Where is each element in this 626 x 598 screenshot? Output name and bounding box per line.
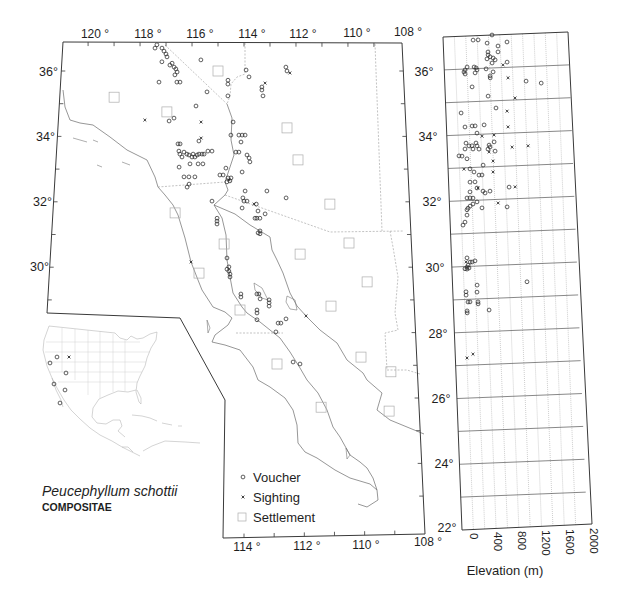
- settlement-marker: [325, 199, 335, 209]
- voucher-marker: [284, 317, 288, 321]
- elevation-voucher-marker: [481, 163, 485, 167]
- inset-voucher-marker: [64, 371, 68, 375]
- voucher-marker: [240, 170, 244, 174]
- lat-label: 30°: [426, 261, 445, 275]
- latitude-gridline: [451, 229, 576, 234]
- inset-north-america-map: [43, 326, 200, 456]
- voucher-marker: [205, 90, 209, 94]
- elevation-voucher-marker: [505, 40, 509, 44]
- elevation-voucher-marker: [486, 94, 490, 98]
- voucher-marker: [173, 73, 177, 77]
- voucher-marker: [182, 175, 186, 179]
- distribution-figure: 120 ° 118 ° 116 ° 114 ° 112 ° 110 ° 108 …: [0, 0, 626, 598]
- us-mexico-border-ca: [158, 182, 225, 187]
- inset-sighting-marker: [68, 356, 71, 359]
- elev-tick-label: 1200: [540, 530, 552, 556]
- voucher-marker: [196, 162, 200, 166]
- top-axis-labels: 120 ° 118 ° 116 ° 114 ° 112 ° 110 ° 108 …: [81, 25, 422, 41]
- elevation-gridline: [511, 34, 530, 527]
- lat-label: 36°: [39, 65, 58, 79]
- pacific-coastline: [63, 90, 378, 507]
- settlement-marker: [362, 277, 372, 287]
- voucher-marker: [160, 60, 164, 64]
- coastlines: [63, 90, 424, 507]
- voucher-marker: [284, 196, 288, 200]
- settlement-marker: [344, 238, 354, 248]
- legend-settlement-label: Settlement: [253, 510, 316, 525]
- sonora-chihuahua-border: [385, 231, 420, 374]
- lon-label: 112 °: [293, 539, 320, 553]
- elevation-gridline: [477, 36, 496, 529]
- voucher-marker: [187, 182, 191, 186]
- family-name: COMPOSITAE: [42, 501, 112, 513]
- legend-voucher-icon: [241, 475, 245, 479]
- latitude-gridline: [456, 361, 581, 366]
- voucher-marker: [210, 199, 214, 203]
- elevation-voucher-marker: [463, 147, 467, 151]
- elevation-voucher-marker: [496, 50, 500, 54]
- elevation-sighting-marker: [507, 125, 510, 128]
- lat-label: 28°: [429, 327, 448, 341]
- voucher-marker: [226, 78, 230, 82]
- latitude-gridline: [454, 328, 579, 333]
- lon-label: 110 °: [352, 538, 379, 552]
- elevation-voucher-marker: [485, 41, 489, 45]
- lat-label: 34°: [419, 130, 438, 144]
- latitude-gridline: [457, 394, 582, 399]
- elevation-voucher-marker: [488, 189, 492, 193]
- elev-tick-label: 800: [516, 531, 528, 550]
- lat-label: 30°: [30, 260, 49, 274]
- elevation-sighting-marker: [465, 260, 468, 263]
- voucher-marker: [256, 209, 260, 213]
- elevation-voucher-marker: [459, 111, 463, 115]
- settlement-marker: [282, 123, 292, 133]
- inset-voucher-marker: [58, 401, 62, 405]
- voucher-marker: [298, 362, 302, 366]
- voucher-marker: [172, 116, 176, 120]
- settlement-marker: [235, 305, 245, 315]
- voucher-marker: [194, 104, 198, 108]
- elevation-sighting-marker: [511, 146, 514, 149]
- species-title: Peucephyllum schottii COMPOSITAE: [42, 483, 178, 513]
- elevation-gridline: [545, 33, 564, 526]
- inset-gulf-coast: [92, 390, 136, 437]
- latitude-gridline: [448, 163, 573, 168]
- colorado-river: [214, 104, 234, 205]
- elevation-sighting-marker: [472, 353, 475, 356]
- inset-voucher-marker: [55, 355, 59, 359]
- lon-label: 114 °: [233, 540, 260, 554]
- voucher-marker: [188, 162, 192, 166]
- sighting-marker: [143, 119, 146, 122]
- elevation-voucher-marker: [485, 57, 489, 61]
- lat-label: 22°: [438, 521, 457, 535]
- voucher-marker: [224, 166, 228, 170]
- map-frame: [47, 42, 425, 538]
- elevation-sighting-marker: [514, 185, 517, 188]
- elevation-voucher-marker: [475, 283, 479, 287]
- elevation-voucher-marker: [505, 60, 509, 64]
- voucher-marker: [258, 297, 262, 301]
- elevation-voucher-marker: [463, 125, 467, 129]
- elevation-sighting-marker: [507, 76, 510, 79]
- species-name: Peucephyllum schottii: [42, 483, 178, 499]
- elevation-voucher-marker: [482, 123, 486, 127]
- elev-tick-label: 0: [468, 533, 480, 539]
- elevation-voucher-marker: [465, 213, 469, 217]
- settlement-marker: [326, 301, 336, 311]
- elevation-voucher-marker: [471, 38, 475, 42]
- elevation-sighting-marker: [527, 144, 530, 147]
- elevation-voucher-marker: [470, 85, 474, 89]
- legend-voucher-label: Voucher: [253, 470, 301, 485]
- political-borders: [158, 43, 420, 374]
- voucher-marker: [263, 212, 267, 216]
- elevation-voucher-marker: [472, 170, 476, 174]
- elevation-voucher-marker: [465, 157, 469, 161]
- elev-tick-label: 400: [492, 532, 504, 551]
- voucher-marker: [247, 156, 251, 160]
- lat-label: 32°: [423, 195, 442, 209]
- elevation-sighting-marker: [506, 110, 509, 113]
- elevation-voucher-marker: [465, 256, 469, 260]
- settlement-marker: [213, 66, 223, 76]
- elevation-voucher-marker: [473, 71, 477, 75]
- voucher-marker: [206, 149, 210, 153]
